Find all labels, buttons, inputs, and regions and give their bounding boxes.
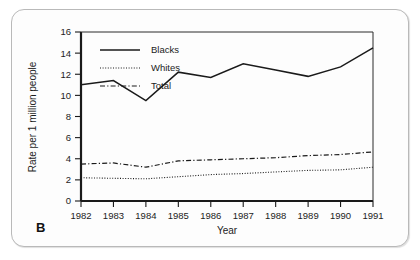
y-axis-title: Rate per 1 million people <box>27 61 38 172</box>
y-tick-label: 4 <box>66 153 71 164</box>
series-line-blacks <box>81 48 373 101</box>
y-axis-tick-labels: 0246810121416 <box>60 26 71 206</box>
y-tick-label: 0 <box>66 195 71 206</box>
chart-legend: BlacksWhitesTotal <box>100 44 180 91</box>
figure-card: 0246810121416 Rate per 1 million people … <box>11 9 409 247</box>
series-paths <box>81 48 373 179</box>
y-tick-label: 8 <box>66 111 71 122</box>
x-tick-label: 1991 <box>362 210 383 221</box>
plot-frame <box>81 32 373 201</box>
x-tick-label: 1987 <box>233 210 254 221</box>
legend-label-blacks: Blacks <box>151 44 179 55</box>
x-tick-label: 1983 <box>103 210 124 221</box>
y-tick-label: 16 <box>60 26 71 37</box>
x-tick-label: 1989 <box>298 210 319 221</box>
y-tick-label: 2 <box>66 174 71 185</box>
y-tick-label: 6 <box>66 132 71 143</box>
y-tick-label: 12 <box>60 69 71 80</box>
x-tick-label: 1985 <box>168 210 189 221</box>
x-tick-label: 1986 <box>200 210 221 221</box>
x-tick-label: 1984 <box>135 210 156 221</box>
y-axis-group: 0246810121416 Rate per 1 million people <box>27 26 81 206</box>
legend-label-whites: Whites <box>151 62 180 73</box>
line-chart: 0246810121416 Rate per 1 million people … <box>12 10 410 248</box>
series-line-total <box>81 152 373 167</box>
x-tick-label: 1988 <box>265 210 286 221</box>
x-tick-label: 1982 <box>70 210 91 221</box>
legend-label-total: Total <box>151 80 171 91</box>
x-tick-label: 1990 <box>330 210 351 221</box>
y-tick-label: 14 <box>60 48 71 59</box>
y-tick-label: 10 <box>60 90 71 101</box>
x-axis-tick-labels: 1982198319841985198619871988198919901991 <box>70 210 383 221</box>
x-axis-title: Year <box>217 225 238 236</box>
panel-label: B <box>36 220 45 235</box>
x-axis-group: 1982198319841985198619871988198919901991… <box>70 201 383 236</box>
series-line-whites <box>81 167 373 179</box>
